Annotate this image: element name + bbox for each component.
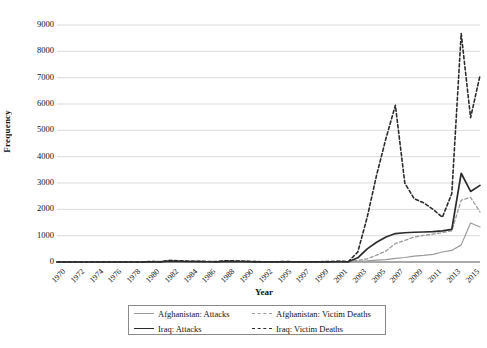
plot-area	[0, 0, 487, 348]
legend-swatch-afghanistan-attacks	[134, 313, 154, 314]
legend-label-iraq-victim-deaths: Iraq: Victim Deaths	[276, 324, 343, 334]
legend-label-afghanistan-attacks: Afghanistan: Attacks	[158, 309, 230, 319]
series-line-iraq-attacks	[57, 173, 480, 262]
chart-legend: Afghanistan: Attacks Afghanistan: Victim…	[128, 305, 386, 335]
legend-item-afghanistan-attacks: Afghanistan: Attacks	[129, 309, 247, 319]
series-line-afghanistan-attacks	[57, 223, 480, 262]
legend-swatch-iraq-victim-deaths	[252, 328, 272, 329]
series-line-iraq-victim-deaths	[57, 33, 480, 262]
gridlines	[57, 25, 480, 236]
legend-item-afghanistan-victim-deaths: Afghanistan: Victim Deaths	[247, 309, 387, 319]
chart-figure: Frequency 010002000300040005000600070008…	[0, 0, 487, 348]
legend-label-iraq-attacks: Iraq: Attacks	[158, 324, 202, 334]
x-axis-title: Year	[255, 287, 273, 297]
data-series-layer	[57, 33, 480, 262]
legend-label-afghanistan-victim-deaths: Afghanistan: Victim Deaths	[276, 309, 371, 319]
series-line-afghanistan-victim-deaths	[57, 197, 480, 262]
legend-item-iraq-attacks: Iraq: Attacks	[129, 324, 247, 334]
legend-swatch-afghanistan-victim-deaths	[252, 313, 272, 314]
legend-swatch-iraq-attacks	[134, 328, 154, 329]
legend-item-iraq-victim-deaths: Iraq: Victim Deaths	[247, 324, 387, 334]
